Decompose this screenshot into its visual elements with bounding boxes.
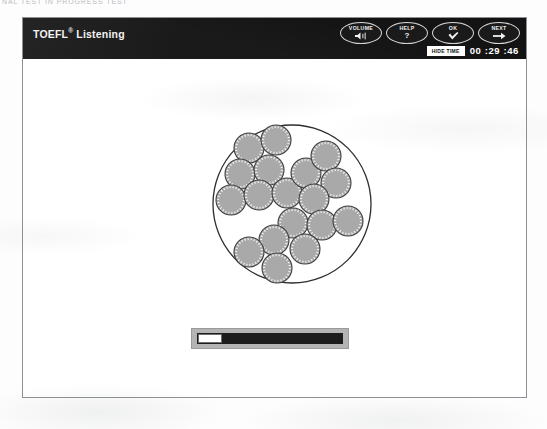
cell-6 <box>244 180 274 210</box>
question-mark-icon: ? <box>405 32 410 40</box>
audio-progress-bar[interactable] <box>191 328 349 349</box>
toefl-test-window: TOEFL® Listening VOLUME HELP ? OK <box>22 17 527 398</box>
hide-time-button[interactable]: HIDE TIME <box>427 46 465 56</box>
ok-button-label: OK <box>449 26 457 31</box>
microscope-field-svg <box>209 121 375 287</box>
cell-18 <box>262 253 292 283</box>
page-title-rest: Listening <box>73 28 125 40</box>
header-button-group: VOLUME HELP ? OK <box>340 22 520 44</box>
page-title-main: TOEFL <box>33 28 68 40</box>
cell-2 <box>261 125 291 155</box>
next-button-label: NEXT <box>491 26 506 31</box>
ok-button[interactable]: OK <box>432 22 474 44</box>
next-button[interactable]: NEXT <box>478 22 520 44</box>
scan-artifact-top-text: NAL TEST IN PROGRESS TEST <box>2 0 302 7</box>
speaker-icon <box>355 32 368 40</box>
cell-5 <box>216 185 246 215</box>
time-remaining: 00 :29 :46 <box>470 45 519 56</box>
test-header-bar: TOEFL® Listening VOLUME HELP ? OK <box>23 18 526 59</box>
help-button[interactable]: HELP ? <box>386 22 428 44</box>
audio-progress-handle[interactable] <box>198 334 222 343</box>
volume-button[interactable]: VOLUME <box>340 22 382 44</box>
cell-14 <box>333 206 363 236</box>
audio-progress-track[interactable] <box>197 333 343 344</box>
cell-16 <box>290 234 320 264</box>
microscope-field-figure <box>209 121 375 287</box>
checkmark-icon <box>448 32 459 40</box>
page-title: TOEFL® Listening <box>33 27 125 40</box>
cell-11 <box>299 184 329 214</box>
cell-9 <box>311 141 341 171</box>
timer-row: HIDE TIME 00 :29 :46 <box>427 45 519 56</box>
test-content-area <box>23 59 526 397</box>
cell-17 <box>234 237 264 267</box>
volume-button-label: VOLUME <box>349 26 373 31</box>
arrow-right-icon <box>493 32 506 40</box>
